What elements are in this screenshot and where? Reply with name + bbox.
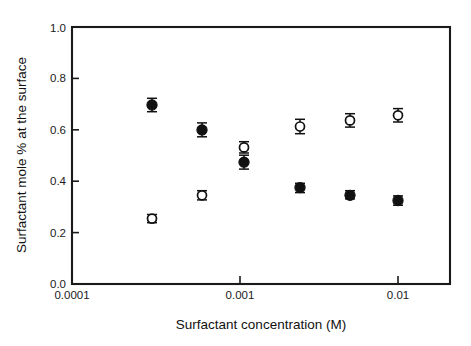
data-point-open-1 [197, 191, 207, 200]
data-point-open-3 [295, 119, 305, 133]
x-axis-group: 0.0001 0.001 0.01 [54, 276, 409, 301]
y-tick-label-3: 0.6 [50, 124, 66, 136]
data-point-filled-4 [345, 190, 355, 200]
data-point-open-4 [345, 114, 355, 127]
y-tick-label-4: 0.8 [50, 72, 66, 84]
data-point-open-5 [393, 109, 403, 122]
scatter-plot-svg: 0.0 0.2 0.4 0.6 0.8 1.0 0.0001 0.001 0.0… [0, 0, 471, 346]
series-open-circles [147, 109, 403, 224]
plot-frame [72, 27, 450, 284]
data-point-filled-2 [239, 155, 249, 169]
y-tick-label-5: 1.0 [50, 22, 66, 34]
data-point-filled-3 [295, 183, 305, 193]
data-point-filled-0 [147, 98, 157, 111]
y-tick-label-1: 0.2 [50, 227, 66, 239]
series-filled-circles [147, 98, 403, 205]
x-axis-title: Surfactant concentration (M) [176, 317, 346, 332]
x-tick-label-0: 0.0001 [54, 289, 89, 301]
y-axis-group: 0.0 0.2 0.4 0.6 0.8 1.0 [50, 22, 79, 291]
y-tick-label-2: 0.4 [50, 175, 67, 187]
x-tick-label-2: 0.01 [387, 289, 409, 301]
data-point-filled-5 [393, 195, 403, 205]
data-point-open-0 [147, 214, 157, 223]
x-tick-label-1: 0.001 [226, 289, 255, 301]
y-axis-title: Surfactant mole % at the surface [14, 57, 29, 253]
data-point-open-2 [239, 142, 249, 153]
data-point-filled-1 [197, 123, 207, 137]
chart-figure: 0.0 0.2 0.4 0.6 0.8 1.0 0.0001 0.001 0.0… [0, 0, 471, 346]
